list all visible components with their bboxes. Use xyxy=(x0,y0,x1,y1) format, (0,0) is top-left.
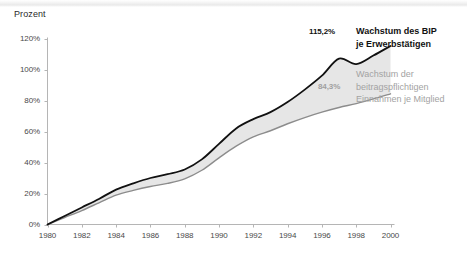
x-tick-label: 1988 xyxy=(170,231,200,240)
x-tick-label: 1986 xyxy=(135,231,165,240)
y-tick-label: 0% xyxy=(8,220,40,229)
legend-top-line2: je Erwerbstätigen xyxy=(356,38,437,51)
y-tick-label: 80% xyxy=(8,96,40,105)
y-tick-label: 60% xyxy=(8,127,40,136)
series-band-fill xyxy=(48,46,391,225)
x-tick-label: 1984 xyxy=(101,231,131,240)
legend-top-line1: Wachstum des BIP xyxy=(356,25,437,38)
legend-top-series: Wachstum des BIP je Erwerbstätigen xyxy=(356,25,437,50)
legend-bottom-line2: beitragspflichtigen xyxy=(356,81,445,94)
x-tick-label: 1990 xyxy=(204,231,234,240)
legend-bottom-line1: Wachstum der xyxy=(356,68,445,81)
x-tick-label: 1982 xyxy=(67,231,97,240)
x-tick-label: 1992 xyxy=(238,231,268,240)
legend-bottom-series: Wachstum der beitragspflichtigen Einnahm… xyxy=(356,68,445,106)
x-tick-label: 1980 xyxy=(33,231,63,240)
top-series-value-label: 115,2% xyxy=(309,27,335,36)
x-tick-label: 2000 xyxy=(376,231,406,240)
bottom-series-value-label: 84,3% xyxy=(318,82,340,91)
x-tick-label: 1996 xyxy=(307,231,337,240)
legend-bottom-line3: Einnahmen je Mitglied xyxy=(356,93,445,106)
x-tick-label: 1994 xyxy=(273,231,303,240)
x-tick-label: 1998 xyxy=(341,231,371,240)
y-tick-label: 40% xyxy=(8,158,40,167)
y-tick-label: 20% xyxy=(8,189,40,198)
y-tick-label: 100% xyxy=(8,65,40,74)
y-tick-label: 120% xyxy=(8,34,40,43)
chart-page: Prozent 0%20%40%60%80%100%120% 198019821… xyxy=(0,0,467,256)
